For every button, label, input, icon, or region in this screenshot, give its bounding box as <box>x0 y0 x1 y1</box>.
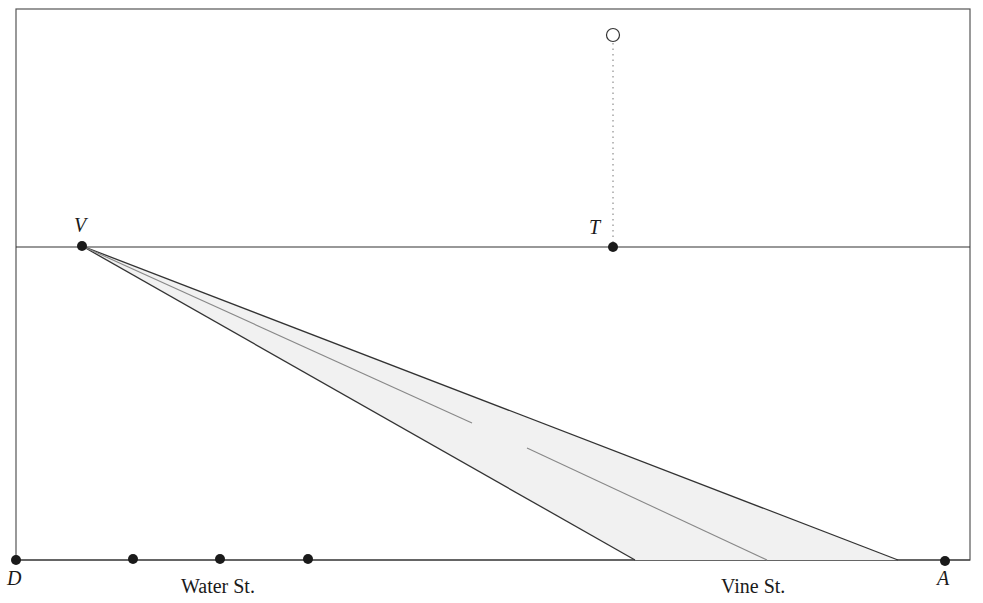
road-right-edge <box>82 246 898 560</box>
point-D <box>11 555 21 565</box>
label-T: T <box>589 217 600 237</box>
point-V <box>77 241 87 251</box>
perspective-diagram: V T D A Water St. Vine St. <box>0 0 983 603</box>
water-street-label: Water St. <box>181 576 255 596</box>
label-V: V <box>74 215 86 235</box>
label-A: A <box>937 568 949 588</box>
bottom-dot <box>128 554 138 564</box>
vine-street-label: Vine St. <box>721 576 785 596</box>
road-left-edge <box>82 246 635 560</box>
point-T <box>608 242 618 252</box>
diagram-canvas <box>0 0 983 603</box>
road-center-line-near <box>82 246 472 423</box>
bottom-dot <box>303 554 313 564</box>
open-point <box>607 29 620 42</box>
label-D: D <box>7 568 21 588</box>
bottom-dot <box>215 554 225 564</box>
point-A <box>940 556 950 566</box>
